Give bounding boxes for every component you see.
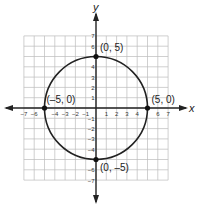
x-tick-label: 3: [125, 111, 129, 117]
x-tick-label: 1: [105, 111, 109, 117]
x-axis-label: x: [188, 102, 195, 114]
y-tick-label: 2: [91, 85, 95, 91]
x-tick-label: −4: [51, 111, 59, 117]
y-axis-down-arrow-icon: [93, 195, 99, 204]
x-axis-right-arrow-icon: [179, 105, 188, 111]
y-tick-label: 7: [91, 33, 95, 39]
x-tick-label: −6: [31, 111, 39, 117]
x-tick-label: −7: [20, 111, 28, 117]
y-tick-label: −7: [88, 178, 96, 184]
point-marker: [145, 105, 150, 110]
coordinate-plane: −7−6−4−3−2−1123467764321−1−2−3−4−6−7 (0,…: [0, 0, 197, 208]
y-tick-label: 6: [91, 44, 95, 50]
x-tick-label: 2: [115, 111, 119, 117]
y-tick-label: 3: [91, 75, 95, 81]
y-tick-label: −4: [88, 147, 96, 153]
y-axis-up-arrow-icon: [93, 12, 99, 21]
x-tick-label: 7: [166, 111, 170, 117]
point-label: (5, 0): [152, 94, 175, 105]
y-axis-label: y: [92, 1, 100, 13]
x-tick-label: 6: [156, 111, 160, 117]
point-marker: [42, 105, 47, 110]
point-marker: [93, 54, 98, 59]
point-label: (0, –5): [100, 162, 129, 173]
y-tick-label: −6: [88, 167, 96, 173]
points: (0, 5)(–5, 0)(5, 0)(0, –5): [42, 42, 175, 173]
point-marker: [93, 157, 98, 162]
y-tick-label: 4: [91, 64, 95, 70]
x-axis-left-arrow-icon: [4, 105, 13, 111]
x-tick-label: 4: [136, 111, 140, 117]
point-label: (0, 5): [100, 42, 123, 53]
x-tick-label: −2: [72, 111, 80, 117]
y-tick-label: −2: [88, 126, 96, 132]
y-tick-label: −3: [88, 136, 96, 142]
point-label: (–5, 0): [47, 94, 76, 105]
axes: [4, 12, 188, 204]
x-tick-label: −3: [62, 111, 70, 117]
y-tick-label: 1: [91, 95, 95, 101]
y-tick-label: −1: [88, 116, 96, 122]
